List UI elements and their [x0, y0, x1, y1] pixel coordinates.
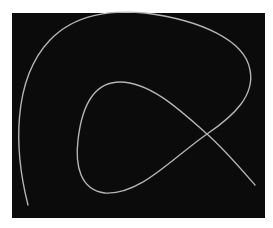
loop-curve-graphic	[0, 0, 273, 228]
loop-curve	[19, 12, 255, 205]
figure-canvas	[0, 0, 273, 228]
